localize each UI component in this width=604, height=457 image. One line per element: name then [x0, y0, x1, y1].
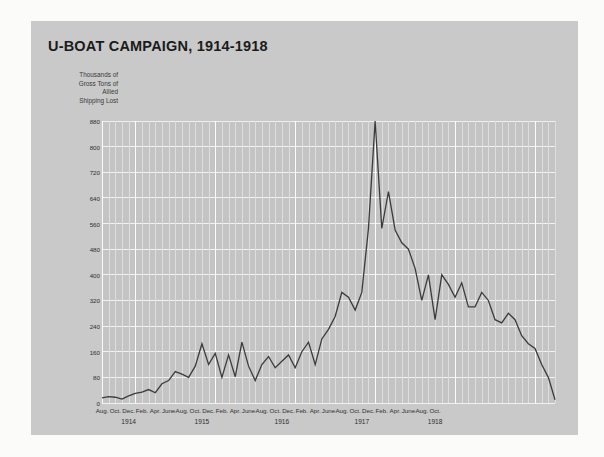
x-axis-tick-label: June — [402, 407, 415, 414]
y-axis-tick-label: 880 — [60, 118, 100, 125]
x-axis-year-label: 1917 — [354, 418, 369, 425]
y-axis-caption-line-3: Allied — [40, 88, 118, 97]
x-axis-tick-label: Oct. — [190, 407, 201, 414]
y-axis-tick-label: 400 — [60, 271, 100, 278]
x-axis-tick-label: Dec. — [122, 407, 135, 414]
x-axis-tick-label: Oct. — [110, 407, 121, 414]
x-axis-tick-label: Aug. — [335, 407, 348, 414]
y-axis-caption-line-4: Shipping Lost — [40, 97, 118, 106]
y-axis-tick-label: 720 — [60, 169, 100, 176]
line-series — [102, 121, 555, 403]
y-axis-tick-label: 480 — [60, 246, 100, 253]
y-axis-caption-line-2: Gross Tons of — [40, 80, 118, 89]
x-axis-year-label: 1914 — [121, 418, 136, 425]
x-axis-tick-label: Aug. — [256, 407, 269, 414]
y-axis-tick-label: 640 — [60, 194, 100, 201]
x-axis-tick-label: Feb. — [376, 407, 388, 414]
x-axis-tick-label: Feb. — [296, 407, 308, 414]
x-axis-tick-label: Feb. — [216, 407, 228, 414]
y-axis-tick-label: 160 — [60, 348, 100, 355]
x-axis-tick-label: June — [242, 407, 255, 414]
plot-area: 080160240320400480560640720800880Aug.Oct… — [102, 121, 555, 403]
x-axis-tick-label: Oct. — [349, 407, 360, 414]
x-axis-tick-label: Dec. — [362, 407, 375, 414]
y-axis-tick-label: 800 — [60, 143, 100, 150]
x-axis-tick-label: Apr. — [230, 407, 241, 414]
shipping-loss-line — [102, 121, 555, 400]
x-gridline — [555, 121, 556, 403]
x-axis-tick-label: Oct. — [270, 407, 281, 414]
y-axis-tick-label: 0 — [60, 400, 100, 407]
x-axis-tick-label: Apr. — [310, 407, 321, 414]
page-title: U-BOAT CAMPAIGN, 1914-1918 — [48, 38, 268, 54]
y-axis-caption-line-1: Thousands of — [40, 71, 118, 80]
x-axis-tick-label: Feb. — [136, 407, 148, 414]
x-axis-tick-label: Aug. — [96, 407, 109, 414]
x-axis-tick-label: Oct. — [429, 407, 440, 414]
x-axis-tick-label: Aug. — [415, 407, 428, 414]
y-axis-tick-label: 560 — [60, 220, 100, 227]
x-axis-tick-label: June — [162, 407, 175, 414]
x-axis-tick-label: June — [322, 407, 335, 414]
y-axis-caption: Thousands of Gross Tons of Allied Shippi… — [40, 71, 118, 105]
x-axis-tick-label: Aug. — [176, 407, 189, 414]
x-axis-year-label: 1916 — [275, 418, 290, 425]
chart-card: U-BOAT CAMPAIGN, 1914-1918 Thousands of … — [31, 21, 578, 435]
x-axis-year-label: 1915 — [195, 418, 210, 425]
x-axis-tick-label: Apr. — [390, 407, 401, 414]
x-axis-tick-label: Dec. — [202, 407, 215, 414]
x-axis-tick-label: Apr. — [150, 407, 161, 414]
x-axis-tick-label: Dec. — [282, 407, 295, 414]
y-axis-tick-label: 80 — [60, 374, 100, 381]
x-axis-year-label: 1918 — [428, 418, 443, 425]
y-axis-tick-label: 320 — [60, 297, 100, 304]
y-axis-tick-label: 240 — [60, 323, 100, 330]
